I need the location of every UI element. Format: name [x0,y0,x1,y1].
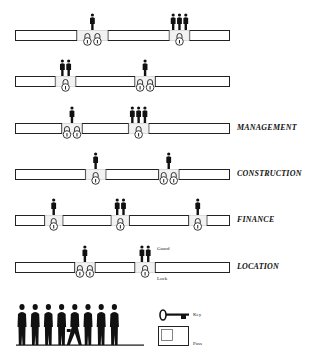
guard-icon [82,245,87,262]
person-torso [18,312,27,327]
wall-segment [63,216,111,226]
guard-head [116,198,119,201]
guard-legs [137,117,139,123]
guard-body [166,156,171,163]
wall-segment [16,124,62,134]
lock-annotation: Lock [157,276,167,281]
guard-head [172,13,175,16]
lock-keyhole [89,272,90,276]
pass-card-icon [159,327,189,346]
guard-body [93,156,98,163]
guard-head [143,106,146,109]
wall-segment [207,216,230,226]
lock-keyhole [87,40,88,44]
guard-body [143,110,148,117]
wall-segment [149,124,230,134]
guard-body [143,63,148,70]
guard-head [143,59,146,62]
person-legs [85,327,92,345]
guard-legs [71,117,73,123]
guard-body [90,17,95,24]
guard-body [136,110,141,117]
guard-head [184,13,187,16]
lock-keyhole [197,225,198,229]
person-torso [110,312,119,327]
lock-keyhole [95,179,96,183]
row-5 [16,198,230,230]
row-2 [16,59,230,91]
guard-head [131,106,134,109]
lock-keyhole [53,225,54,229]
person-head [33,304,38,310]
guard-legs [178,24,180,30]
person-torso [44,312,53,327]
wall-segment [179,170,230,180]
person-legs [45,327,52,345]
wall-segment [95,263,135,273]
guard-head [91,13,94,16]
guard-body [70,110,75,117]
guard-head [137,106,140,109]
guard-icon [60,59,65,76]
gate-opening [77,31,107,41]
guard-icon [136,106,141,123]
guard-legs [144,70,146,76]
guard-body [183,17,188,24]
guard-legs [94,163,96,169]
person-silhouette [18,304,27,345]
key-legend-label: Key [193,312,201,317]
guard-legs [197,209,199,215]
briefcase [67,329,71,332]
guard-body [66,63,71,70]
guard-icon [140,245,145,262]
guard-head [52,198,55,201]
lock-keyhole [145,272,146,276]
guard-icon [115,198,120,215]
guard-body [115,202,120,209]
wall-segment [76,77,135,87]
guard-icon [90,13,95,30]
guard-icon [177,13,182,30]
lock-keyhole [163,179,164,183]
guard-legs [84,256,86,262]
lock-keyhole [179,40,180,44]
guard-body [146,249,151,256]
guard-body [195,202,200,209]
person-silhouette [84,304,93,345]
security-diagram [0,0,312,359]
guard-head [122,198,125,201]
wall-segment [190,31,230,41]
person-head [112,304,117,310]
row-6 [16,245,230,277]
lock-keyhole [150,86,151,90]
person-torso [31,312,40,327]
lock-keyhole [66,133,67,137]
guard-icon [171,13,176,30]
row-label-management: MANAGEMENT [237,123,297,132]
guard-head [61,59,64,62]
guard-icon [130,106,135,123]
lock-keyhole [76,133,77,137]
guard-body [140,249,145,256]
guard-head [70,106,73,109]
guard-icon [146,245,151,262]
key-bit [181,315,186,319]
row-label-location: LOCATION [237,262,279,271]
guard-icon [51,198,56,215]
person-silhouette [57,304,66,345]
lock-keyhole [140,86,141,90]
person-legs [111,327,118,345]
guard-head [167,152,170,155]
person-legs [58,327,65,345]
wall-segment [108,31,169,41]
wall-segment [82,124,128,134]
row-label-construction: CONSTRUCTION [237,169,302,178]
guard-legs [144,117,146,123]
lock-keyhole [65,86,66,90]
person-silhouette [110,304,119,345]
key-icon [160,310,189,320]
guard-icon [143,59,148,76]
guard-head [147,245,150,248]
wall-segment [16,170,86,180]
ground-line [16,345,144,346]
